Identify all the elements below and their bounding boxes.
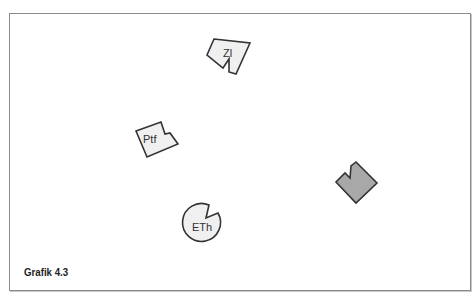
shape-unlabeled-gray [336,162,377,203]
shape-ptf: Ptf [136,122,178,157]
diagram-canvas: Zl Ptf ETh [0,0,476,303]
figure-caption: Grafik 4.3 [24,266,68,278]
shape-eth: ETh [183,203,221,241]
shape-eth-label: ETh [192,221,212,233]
shape-zl: Zl [207,39,250,74]
shape-zl-label: Zl [223,47,232,59]
shape-ptf-label: Ptf [143,133,157,145]
